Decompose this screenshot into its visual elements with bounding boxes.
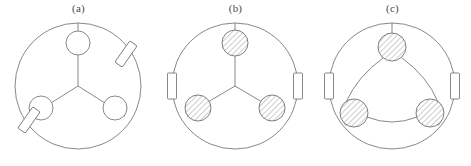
rim-part-left <box>325 73 334 99</box>
panel-a-label: (a) <box>0 1 157 15</box>
panel-c: (c) <box>314 0 471 166</box>
panel-b: (b) <box>157 0 314 166</box>
node-lower-right <box>103 96 127 120</box>
delta-arc-top-left <box>346 58 383 102</box>
node-lower-left <box>185 95 211 121</box>
panel-c-diagram <box>314 16 471 166</box>
spoke-lower-left <box>51 86 78 103</box>
node-lower-left <box>340 99 368 127</box>
panel-a: (a) <box>0 0 157 166</box>
spoke-lower-right <box>78 86 105 103</box>
spoke-lower-left <box>208 86 235 102</box>
node-lower-right <box>259 95 285 121</box>
panel-b-label: (b) <box>157 1 314 15</box>
rim-part-right <box>294 73 303 99</box>
node-top <box>222 30 248 56</box>
node-top <box>378 33 406 61</box>
delta-arc-bottom <box>367 117 417 122</box>
panel-b-diagram <box>157 16 314 166</box>
delta-arc-top-right <box>402 58 438 102</box>
node-lower-right <box>416 99 444 127</box>
panel-a-diagram <box>0 16 157 166</box>
spoke-lower-right <box>235 86 262 102</box>
figure-root: (a) <box>0 0 471 166</box>
rim-part-left <box>168 73 177 99</box>
panel-c-label: (c) <box>314 1 471 15</box>
rim-part-right <box>451 73 460 99</box>
node-top <box>66 31 90 55</box>
